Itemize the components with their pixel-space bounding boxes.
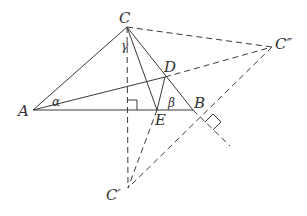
dashed-c-c2 — [127, 27, 272, 47]
segment-ed — [157, 77, 165, 110]
label-a: A — [16, 102, 29, 120]
label-c: C — [119, 9, 131, 27]
label-e: E — [154, 111, 166, 129]
dashed-e-c1 — [128, 110, 157, 188]
label-c-prime: C′ — [106, 186, 121, 204]
geometry-diagram: A B C D E C′ C″ α β γ — [0, 0, 307, 216]
right-angle-marker-b — [205, 114, 221, 130]
angle-beta: β — [167, 96, 175, 110]
label-c-double-prime: C″ — [275, 35, 292, 53]
label-d: D — [163, 58, 176, 76]
angle-gamma: γ — [121, 39, 129, 53]
dashed-d-c2 — [165, 47, 272, 77]
diagram-svg: A B C D E C′ C″ α β γ — [0, 0, 307, 216]
segment-ce — [127, 27, 157, 110]
angle-alpha: α — [52, 95, 60, 109]
right-angle-marker-altitude — [127, 100, 137, 110]
segment-ac — [33, 27, 127, 110]
label-b: B — [193, 94, 205, 112]
